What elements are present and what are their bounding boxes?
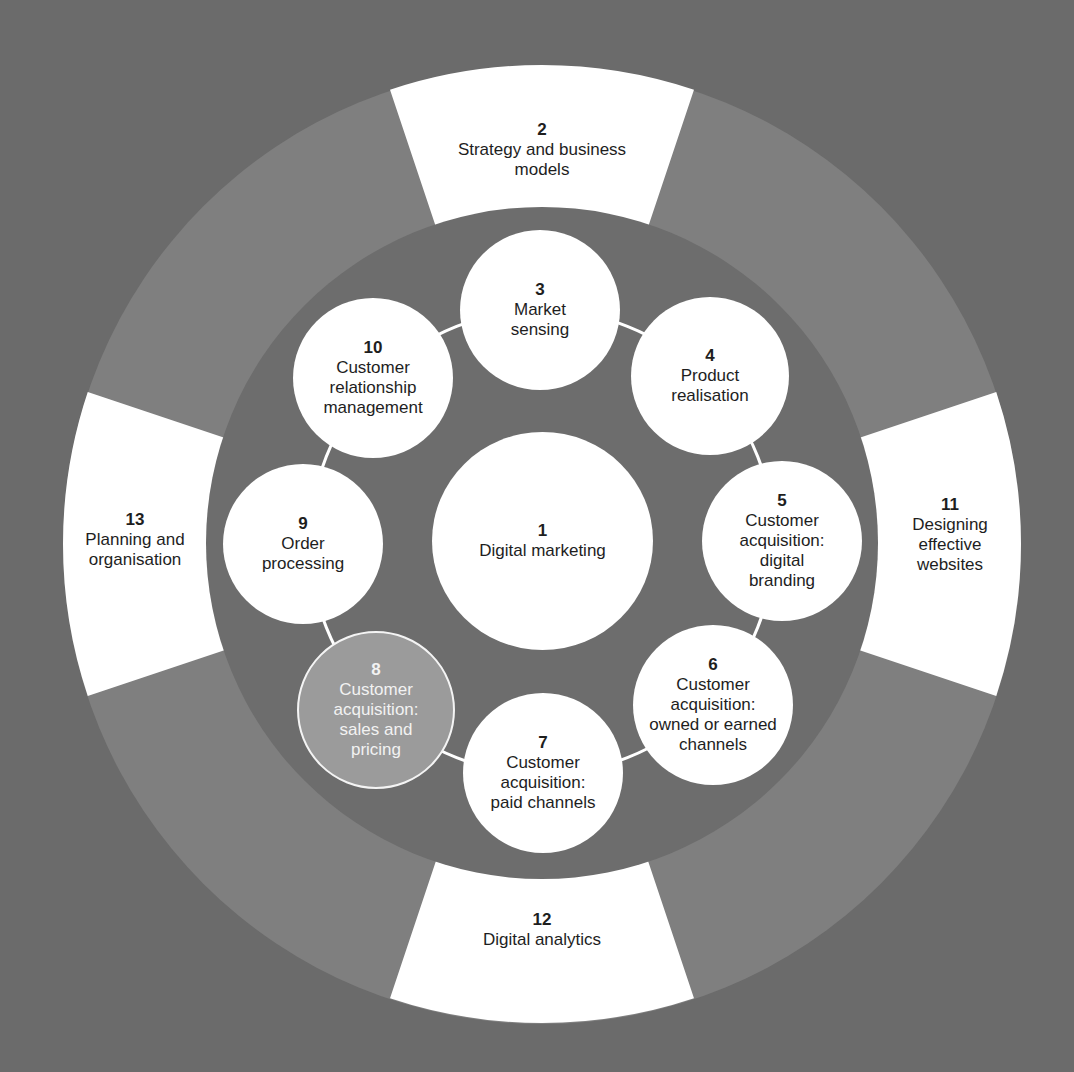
node-market-sensing[interactable]: 3 Market sensing (460, 230, 620, 390)
segment-websites[interactable]: 11 Designing effective websites (880, 480, 1020, 590)
node-number: 8 (371, 660, 380, 680)
node-crm[interactable]: 10 Customer relationship management (293, 298, 453, 458)
segment-planning[interactable]: 13 Planning and organisation (60, 500, 210, 580)
node-product-realisation[interactable]: 4 Product realisation (631, 297, 789, 455)
node-number: 5 (777, 491, 786, 511)
segment-analytics[interactable]: 12 Digital analytics (420, 900, 664, 960)
node-number: 1 (538, 521, 547, 541)
node-label: Customer acquisition: paid channels (491, 753, 596, 813)
node-sales-pricing[interactable]: 8 Customer acquisition: sales and pricin… (297, 631, 455, 789)
digital-marketing-diagram: 2 Strategy and business models 11 Design… (0, 0, 1074, 1072)
segment-label: Strategy and business models (458, 140, 626, 180)
segment-strategy[interactable]: 2 Strategy and business models (400, 110, 684, 190)
node-number: 7 (538, 733, 547, 753)
node-number: 9 (298, 514, 307, 534)
segment-label: Designing effective websites (912, 515, 988, 575)
node-owned-earned-channels[interactable]: 6 Customer acquisition: owned or earned … (633, 625, 793, 785)
node-number: 6 (708, 655, 717, 675)
segment-label: Digital analytics (483, 930, 601, 950)
node-label: Customer acquisition: owned or earned ch… (649, 675, 777, 755)
segment-number: 2 (537, 120, 546, 140)
node-label: Customer acquisition: digital branding (739, 511, 824, 591)
node-digital-branding[interactable]: 5 Customer acquisition: digital branding (702, 461, 862, 621)
node-label: Customer acquisition: sales and pricing (333, 680, 418, 760)
node-number: 10 (364, 338, 383, 358)
node-number: 4 (705, 346, 714, 366)
segment-number: 12 (533, 910, 552, 930)
segment-number: 13 (126, 510, 145, 530)
segment-label: Planning and organisation (85, 530, 184, 570)
node-number: 3 (535, 280, 544, 300)
segment-number: 11 (941, 495, 959, 515)
node-label: Customer relationship management (323, 358, 422, 418)
node-label: Digital marketing (479, 541, 606, 561)
node-label: Market sensing (511, 300, 570, 340)
node-label: Order processing (262, 534, 344, 574)
node-label: Product realisation (671, 366, 749, 406)
center-node-digital-marketing[interactable]: 1 Digital marketing (432, 432, 653, 650)
node-paid-channels[interactable]: 7 Customer acquisition: paid channels (463, 693, 623, 853)
node-order-processing[interactable]: 9 Order processing (223, 464, 383, 624)
